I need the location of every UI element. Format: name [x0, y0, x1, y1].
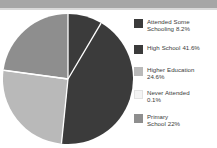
pie-svg — [3, 13, 133, 145]
legend-swatch-never-attended — [134, 90, 143, 99]
header-band-shadow — [0, 8, 217, 10]
legend-label-line1: Higher Education — [147, 66, 194, 73]
legend-label-line1: High School 41.6% — [147, 44, 200, 51]
legend-label-line2: Schooling 8.2% — [147, 25, 190, 32]
pie-slice-higher-education[interactable] — [3, 70, 68, 143]
legend-label-line2: 24.6% — [147, 73, 164, 80]
legend-swatch-high-school — [134, 45, 143, 54]
legend-label-line1: Never Attended — [147, 89, 190, 96]
legend-item-primary-school[interactable]: Primary School 22% — [134, 113, 217, 128]
legend-label-line2: School 22% — [147, 120, 180, 127]
legend-item-attended-some-schooling[interactable]: Attended Some Schooling 8.2% — [134, 18, 217, 33]
legend-item-higher-education[interactable]: Higher Education 24.6% — [134, 66, 217, 81]
legend-swatch-higher-education — [134, 67, 143, 76]
legend-label-line1: Attended Some — [147, 18, 190, 25]
legend-item-never-attended[interactable]: Never Attended 0.1% — [134, 89, 217, 104]
legend-label-high-school: High School 41.6% — [147, 44, 200, 51]
legend-label-primary-school: Primary School 22% — [147, 113, 180, 128]
legend-swatch-attended-some-schooling — [134, 19, 143, 28]
legend: Attended Some Schooling 8.2% High School… — [134, 18, 217, 144]
legend-item-high-school[interactable]: High School 41.6% — [134, 44, 217, 54]
header-band — [0, 0, 217, 8]
pie-slice-primary-school[interactable] — [4, 14, 68, 79]
legend-label-line1: Primary — [147, 113, 168, 120]
legend-label-attended-some-schooling: Attended Some Schooling 8.2% — [147, 18, 190, 33]
pie-plot-area — [3, 13, 133, 145]
pie-chart-figure: Attended Some Schooling 8.2% High School… — [0, 0, 217, 148]
legend-label-higher-education: Higher Education 24.6% — [147, 66, 194, 81]
legend-label-line2: 0.1% — [147, 96, 161, 103]
legend-label-never-attended: Never Attended 0.1% — [147, 89, 190, 104]
legend-swatch-primary-school — [134, 114, 143, 123]
